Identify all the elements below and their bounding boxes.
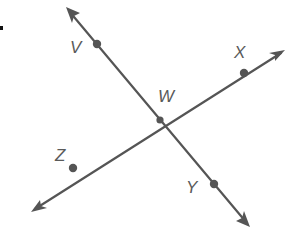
label-x: X <box>234 44 245 61</box>
label-v: V <box>70 39 81 56</box>
intersecting-lines-diagram <box>0 0 296 236</box>
label-z: Z <box>55 147 65 164</box>
point-y <box>210 180 218 188</box>
label-y: Y <box>186 179 197 196</box>
label-w: W <box>158 88 174 105</box>
point-v <box>93 40 101 48</box>
point-x <box>240 69 248 77</box>
point-w <box>156 116 163 123</box>
point-z <box>69 164 77 172</box>
